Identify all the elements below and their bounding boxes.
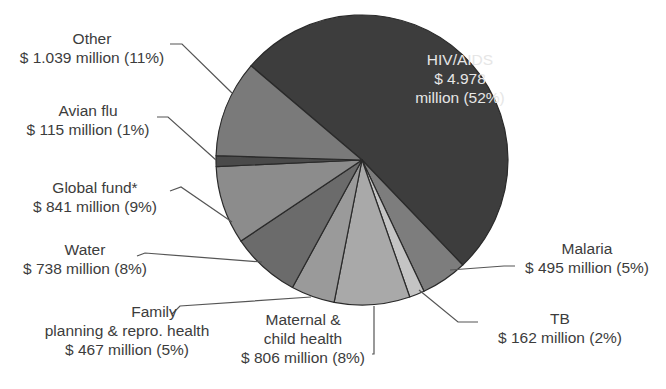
label-hiv-percent: million (52%) (390, 88, 530, 107)
label-water-value: $ 738 million (8%) (10, 259, 160, 278)
leader-line-tb (419, 290, 478, 322)
label-global: Global fund* $ 841 million (9%) (20, 178, 170, 216)
label-maternal-value: $ 806 million (8%) (228, 348, 378, 367)
label-avian-value: $ 115 million (1%) (8, 120, 168, 139)
label-maternal: Maternal & child health $ 806 million (8… (228, 310, 378, 367)
label-global-name: Global fund* (20, 178, 170, 197)
label-family-value: $ 467 million (5%) (24, 340, 230, 359)
label-hiv: HIV/AIDS $ 4.978 million (52%) (390, 50, 530, 107)
label-other-value: $ 1.039 million (11%) (0, 48, 184, 67)
label-hiv-name: HIV/AIDS (390, 50, 530, 69)
label-tb-value: $ 162 million (2%) (480, 328, 640, 347)
label-family-name-2: planning & repro. health (24, 321, 230, 340)
label-other: Other $ 1.039 million (11%) (0, 29, 184, 67)
label-family: Family planning & repro. health $ 467 mi… (24, 302, 230, 359)
label-maternal-name: Maternal & (228, 310, 378, 329)
label-malaria-name: Malaria (508, 239, 666, 258)
label-tb-name: TB (480, 309, 640, 328)
label-tb: TB $ 162 million (2%) (480, 309, 640, 347)
label-water: Water $ 738 million (8%) (10, 240, 160, 278)
label-global-value: $ 841 million (9%) (20, 197, 170, 216)
label-avian-name: Avian flu (8, 101, 168, 120)
label-avian: Avian flu $ 115 million (1%) (8, 101, 168, 139)
label-water-name: Water (10, 240, 160, 259)
label-malaria-value: $ 495 million (5%) (508, 258, 666, 277)
label-other-name: Other (0, 29, 184, 48)
label-hiv-value: $ 4.978 (390, 69, 530, 88)
label-malaria: Malaria $ 495 million (5%) (508, 239, 666, 277)
label-maternal-name-2: child health (228, 329, 378, 348)
label-family-name: Family (24, 302, 230, 321)
